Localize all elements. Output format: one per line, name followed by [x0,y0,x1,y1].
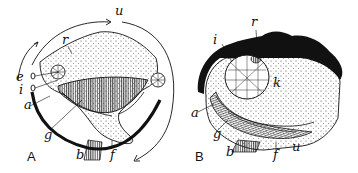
label-a-f: f [110,148,115,161]
label-b-e: e [268,41,276,54]
label-b-u: u [292,140,300,153]
panel-a-drawing [18,19,174,161]
label-a-i: i [19,83,23,96]
label-b-g: g [213,127,221,140]
foot [84,140,102,160]
panel-a-label: A [27,150,36,163]
label-a-a: a [24,98,32,111]
label-b-a: a [191,106,199,119]
label-b-i: i [213,33,217,46]
gill [58,77,148,113]
diagram-canvas [0,0,358,173]
label-b-f: f [273,148,278,161]
label-a-r: r [62,33,68,46]
label-a-u: u [115,4,123,17]
label-b-r: r [251,15,257,28]
label-a-b: b [76,148,84,161]
label-a-g: g [44,128,52,141]
panel-b-label: B [195,150,204,163]
label-b-b: b [226,145,234,158]
label-b-k: k [273,76,281,89]
